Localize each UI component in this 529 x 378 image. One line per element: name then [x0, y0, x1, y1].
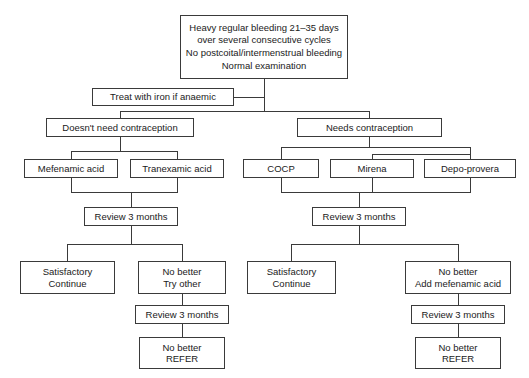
- mefenamic-acid-label: Mefenamic acid: [38, 163, 105, 175]
- satisfactory-right-line-2: Continue: [272, 278, 310, 290]
- node-review-left-1: Review 3 months: [84, 207, 178, 226]
- connector-to-cocp: [281, 147, 282, 159]
- connector-to-satisfactory-right: [291, 244, 292, 261]
- node-no-better-add-mefenamic: No better Add mefenamic acid: [405, 261, 511, 294]
- review-right-1-label: Review 3 months: [323, 211, 396, 223]
- node-depo-provera: Depo-provera: [424, 159, 516, 178]
- satisfactory-right-line-1: Satisfactory: [267, 266, 317, 278]
- connector-split-to-left-branch: [120, 111, 121, 118]
- presentation-line-2: over several consecutive cycles: [197, 34, 331, 47]
- review-left-2-label: Review 3 months: [146, 309, 219, 321]
- connector-split-to-right-branch: [369, 111, 370, 118]
- tranexamic-acid-label: Tranexamic acid: [142, 163, 211, 175]
- connector-right-merge-to-review: [359, 192, 360, 207]
- connector-add-mefenamic-to-review-2: [458, 294, 459, 305]
- no-better-add-mefenamic-line-1: No better: [438, 266, 477, 278]
- review-left-1-label: Review 3 months: [95, 211, 168, 223]
- connector-to-mirena-depo-substem: [470, 147, 471, 154]
- node-review-right-1: Review 3 months: [312, 207, 406, 226]
- connector-try-other-to-review-2: [182, 294, 183, 305]
- node-presentation: Heavy regular bleeding 21–35 days over s…: [180, 15, 348, 79]
- flowchart-diagram: Heavy regular bleeding 21–35 days over s…: [0, 0, 529, 378]
- node-review-right-2: Review 3 months: [411, 305, 505, 324]
- connector-to-tranexamic-acid: [177, 151, 178, 159]
- connector-to-satisfactory-left: [67, 244, 68, 261]
- node-cocp: COCP: [243, 159, 319, 178]
- node-needs-contraception: Needs contraception: [297, 118, 442, 137]
- cocp-label: COCP: [267, 163, 294, 175]
- mirena-label: Mirena: [357, 163, 386, 175]
- node-satisfactory-left: Satisfactory Continue: [20, 261, 115, 294]
- node-refer-left: No better REFER: [139, 337, 225, 369]
- connector-right-treatments-bar: [281, 147, 470, 148]
- connector-left-branch-stem: [120, 137, 121, 151]
- doesnt-need-contraception-label: Doesn't need contraception: [62, 122, 177, 134]
- node-mirena: Mirena: [330, 159, 414, 178]
- connector-to-mefenamic-acid: [71, 151, 72, 159]
- refer-right-line-1: No better: [438, 342, 477, 354]
- node-doesnt-need-contraception: Doesn't need contraception: [46, 118, 194, 137]
- connector-left-outcome-bar: [67, 244, 182, 245]
- connector-left-merge-bar: [71, 192, 178, 193]
- connector-review-right-2-to-refer: [458, 324, 459, 337]
- connector-cocp-down: [281, 178, 282, 192]
- connector-depo-down: [470, 178, 471, 192]
- connector-review-left-2-to-refer: [182, 324, 183, 337]
- connector-iron-to-trunk: [234, 97, 264, 98]
- node-review-left-2: Review 3 months: [135, 305, 229, 324]
- refer-right-line-2: REFER: [442, 353, 474, 365]
- treat-with-iron-label: Treat with iron if anaemic: [110, 91, 216, 103]
- needs-contraception-label: Needs contraception: [326, 122, 413, 134]
- connector-mirena-down: [372, 178, 373, 192]
- connector-right-branch-stem: [369, 137, 370, 147]
- satisfactory-left-line-2: Continue: [48, 278, 86, 290]
- depo-provera-label: Depo-provera: [441, 163, 499, 175]
- node-mefenamic-acid: Mefenamic acid: [24, 159, 118, 178]
- connector-branch-split-bar: [120, 111, 370, 112]
- satisfactory-left-line-1: Satisfactory: [43, 266, 93, 278]
- connector-review-left-1-down: [131, 226, 132, 244]
- connector-to-no-better-add-mefenamic: [458, 244, 459, 261]
- presentation-line-4: Normal examination: [222, 60, 306, 73]
- node-refer-right: No better REFER: [415, 337, 501, 369]
- connector-mirena-depo-bar: [372, 154, 470, 155]
- no-better-add-mefenamic-line-2: Add mefenamic acid: [415, 278, 501, 290]
- connector-to-no-better-try-other: [182, 244, 183, 261]
- no-better-try-other-line-1: No better: [162, 266, 201, 278]
- connector-left-treatments-bar: [71, 151, 177, 152]
- node-satisfactory-right: Satisfactory Continue: [247, 261, 336, 294]
- presentation-line-1: Heavy regular bleeding 21–35 days: [189, 22, 338, 35]
- connector-right-merge-bar: [281, 192, 471, 193]
- connector-presentation-trunk: [264, 79, 265, 111]
- presentation-line-3: No postcoital/intermenstrual bleeding: [186, 47, 342, 60]
- refer-left-line-1: No better: [162, 342, 201, 354]
- node-tranexamic-acid: Tranexamic acid: [130, 159, 224, 178]
- connector-right-outcome-bar: [291, 244, 458, 245]
- connector-left-merge-to-review: [131, 192, 132, 207]
- review-right-2-label: Review 3 months: [422, 309, 495, 321]
- connector-mefenamic-down: [71, 178, 72, 192]
- node-treat-with-iron: Treat with iron if anaemic: [92, 88, 234, 106]
- no-better-try-other-line-2: Try other: [163, 278, 201, 290]
- connector-review-right-1-down: [359, 226, 360, 244]
- connector-tranexamic-down: [177, 178, 178, 192]
- node-no-better-try-other: No better Try other: [138, 261, 226, 294]
- refer-left-line-2: REFER: [166, 353, 198, 365]
